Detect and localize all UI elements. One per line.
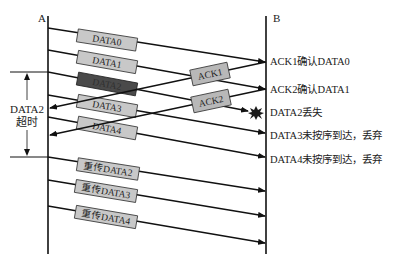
receiver-note-data4-discard: DATA4未按序到达，丢弃 [270, 153, 382, 165]
go-back-n-diagram: A B DATA2 超时 DATA0 DATA1 DATA2 [0, 0, 397, 266]
timeout-label-line2: 超时 [16, 115, 38, 128]
host-a-label: A [38, 12, 46, 24]
frame-data4: DATA4 [48, 116, 265, 157]
host-b-label: B [273, 12, 280, 24]
receiver-note-ack1: ACK1确认DATA0 [270, 55, 350, 67]
loss-burst-icon [248, 106, 264, 120]
receiver-note-data2-lost: DATA2丢失 [270, 106, 323, 118]
timeout-bracket: DATA2 超时 [10, 72, 48, 157]
receiver-note-data3-discard: DATA3未按序到达，丢弃 [270, 129, 382, 141]
receiver-note-ack2: ACK2确认DATA1 [270, 83, 350, 95]
timeout-label-line1: DATA2 [10, 103, 44, 115]
